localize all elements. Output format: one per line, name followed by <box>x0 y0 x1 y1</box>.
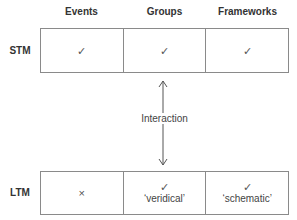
row-label-ltm: LTM <box>4 187 36 198</box>
veridical-note: ‘veridical’ <box>144 193 185 205</box>
ltm-frameworks-cell: ✓ ‘schematic’ <box>206 172 288 214</box>
ltm-groups-cell: ✓ ‘veridical’ <box>124 172 207 214</box>
ltm-events-cell: × <box>41 172 124 214</box>
check-icon: ✓ <box>160 45 169 57</box>
column-header-frameworks: Frameworks <box>206 6 289 17</box>
stm-events-cell: ✓ <box>41 29 124 72</box>
check-icon: ✓ <box>77 45 86 57</box>
row-label-stm: STM <box>4 45 36 56</box>
check-icon: ✓ <box>243 181 252 193</box>
cross-icon: × <box>79 187 85 199</box>
ltm-table: × ✓ ‘veridical’ ✓ ‘schematic’ <box>40 171 289 215</box>
stm-frameworks-cell: ✓ <box>206 29 288 72</box>
stm-groups-cell: ✓ <box>124 29 207 72</box>
check-icon: ✓ <box>160 181 169 193</box>
column-header-events: Events <box>40 6 123 17</box>
column-header-groups: Groups <box>123 6 206 17</box>
stm-table: ✓ ✓ ✓ <box>40 28 289 73</box>
check-icon: ✓ <box>243 45 252 57</box>
schematic-note: ‘schematic’ <box>222 193 271 205</box>
interaction-label: Interaction <box>123 113 206 124</box>
